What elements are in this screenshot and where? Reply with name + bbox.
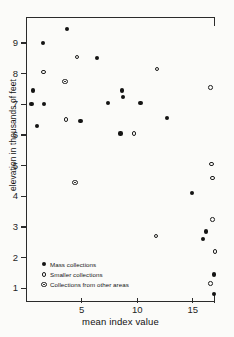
data-point	[190, 191, 194, 195]
frame-right-top-stub	[214, 17, 215, 26]
y-axis-tick-label: 3	[0, 222, 18, 232]
x-axis-tick-label: 5	[75, 305, 89, 315]
legend-item: Smaller collections	[40, 270, 129, 279]
y-axis-tick	[21, 73, 26, 74]
data-point	[212, 272, 216, 276]
data-point	[41, 41, 45, 45]
y-axis-tick	[21, 257, 26, 258]
data-point	[132, 131, 137, 136]
legend-marker-open-icon	[40, 270, 48, 278]
y-axis-tick	[21, 226, 26, 227]
legend-marker-bullseye-icon	[40, 281, 48, 289]
data-point	[62, 79, 67, 84]
data-point	[35, 124, 39, 128]
data-point	[204, 229, 208, 233]
y-axis-tick	[21, 134, 26, 135]
y-axis-tick-label: 1	[0, 283, 18, 293]
x-axis-tick-label: 15	[186, 305, 200, 315]
y-axis-label: elevation in thousands of feet	[8, 60, 18, 210]
legend-item: Collections from other areas	[40, 280, 129, 289]
y-axis-tick	[21, 104, 26, 105]
x-axis-tick	[81, 298, 82, 303]
scatter-plot-figure: 123456789 51015 mean index value elevati…	[0, 0, 234, 337]
y-axis-tick	[21, 288, 26, 289]
legend-marker-filled-icon	[40, 260, 48, 268]
x-axis-tick-label: 10	[130, 305, 144, 315]
marker-glyph	[42, 272, 47, 277]
data-point	[72, 180, 77, 185]
x-axis-tick	[137, 298, 138, 303]
data-point	[120, 88, 124, 92]
legend: Mass collectionsSmaller collectionsColle…	[40, 260, 129, 291]
data-point	[118, 131, 122, 135]
data-point	[210, 217, 215, 222]
data-point	[31, 88, 35, 92]
y-axis-tick-label: 9	[0, 38, 18, 48]
data-point	[78, 119, 82, 123]
x-axis-label: mean index value	[26, 316, 215, 327]
data-point	[213, 249, 218, 254]
data-point	[138, 101, 142, 105]
data-point	[208, 85, 213, 90]
data-point	[208, 281, 213, 286]
legend-item-label: Collections from other areas	[50, 281, 129, 288]
marker-glyph	[41, 282, 46, 287]
legend-item-label: Smaller collections	[50, 271, 103, 278]
y-axis-tick	[21, 42, 26, 43]
legend-item-label: Mass collections	[50, 261, 96, 268]
y-axis-tick-label: 2	[0, 253, 18, 263]
y-axis-tick	[21, 165, 26, 166]
x-axis-tick	[192, 298, 193, 303]
data-point	[121, 95, 125, 99]
marker-glyph	[42, 262, 46, 266]
legend-item: Mass collections	[40, 260, 129, 269]
y-axis-tick	[21, 196, 26, 197]
